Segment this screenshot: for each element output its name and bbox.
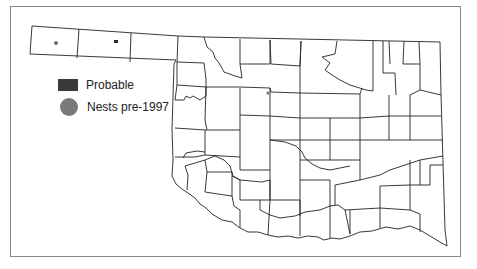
nest-marker-panhandle-west — [54, 41, 58, 45]
probable-marker-panhandle-central — [114, 40, 118, 43]
marker-layer — [0, 0, 477, 269]
nest-marker-north-central — [266, 91, 269, 94]
